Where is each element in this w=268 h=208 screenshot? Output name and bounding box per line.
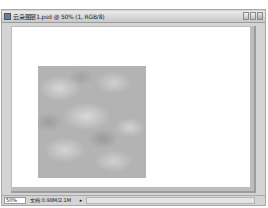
status-menu-arrow-icon[interactable]: ▸ [78, 197, 84, 204]
status-bar: 50% 文档:0.98M/2.1M ▸ [2, 195, 265, 205]
close-button[interactable] [257, 12, 263, 20]
minimize-button[interactable] [243, 12, 249, 20]
canvas-frame [11, 26, 256, 193]
document-canvas[interactable] [12, 27, 250, 187]
clouds-render-layer [38, 66, 146, 178]
window-title: 云朵图层1.psd @ 50% (1, RGB/8) [13, 12, 104, 21]
photoshop-document-icon [4, 13, 11, 20]
window-controls [243, 12, 263, 20]
horizontal-scrollbar[interactable] [86, 197, 255, 204]
document-size: 文档:0.98M/2.1M [30, 197, 76, 204]
title-bar[interactable]: 云朵图层1.psd @ 50% (1, RGB/8) [2, 11, 265, 23]
zoom-level-field[interactable]: 50% [4, 197, 26, 204]
maximize-button[interactable] [250, 12, 256, 20]
document-window: 云朵图层1.psd @ 50% (1, RGB/8) 50% 文档:0.98M/… [1, 9, 266, 206]
